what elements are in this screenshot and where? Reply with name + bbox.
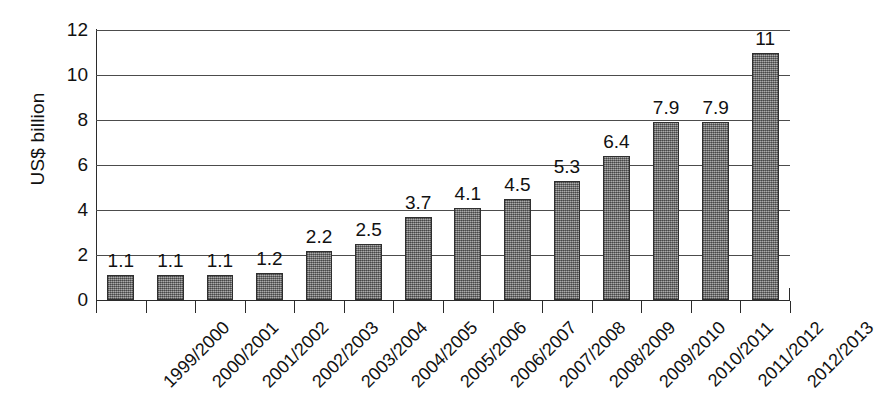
- y-tick-label-6: 6: [48, 155, 88, 174]
- x-tick-mark: [542, 301, 543, 313]
- x-tick-mark: [294, 301, 295, 313]
- bar[interactable]: [157, 275, 184, 300]
- x-tick-mark: [443, 301, 444, 313]
- bar-value-label: 4.5: [493, 175, 543, 194]
- bar-value-label: 4.1: [443, 184, 493, 203]
- y-tick-label-4: 4: [48, 200, 88, 219]
- bar-value-label: 6.4: [592, 132, 642, 151]
- y-tick-label-10: 10: [48, 65, 88, 84]
- x-tick-mark: [96, 301, 97, 313]
- bar[interactable]: [752, 53, 779, 301]
- x-tick-mark: [641, 301, 642, 313]
- bar-value-label: 1.1: [146, 251, 196, 270]
- bar-value-label: 7.9: [691, 98, 741, 117]
- x-tick-mark: [245, 301, 246, 313]
- x-axis-right-cap: [789, 288, 790, 301]
- y-tick-label-8: 8: [48, 110, 88, 129]
- x-tick-mark: [146, 301, 147, 313]
- bar[interactable]: [107, 275, 134, 300]
- bar-value-label: 7.9: [641, 98, 691, 117]
- bar-value-label: 2.5: [344, 220, 394, 239]
- bar[interactable]: [554, 181, 581, 300]
- bar-value-label: 1.1: [195, 251, 245, 270]
- x-tick-mark: [393, 301, 394, 313]
- x-tick-mark: [790, 301, 791, 313]
- gridline-10: [96, 75, 790, 76]
- x-tick-mark: [493, 301, 494, 313]
- gridline-6: [96, 165, 790, 166]
- x-tick-mark: [195, 301, 196, 313]
- bar[interactable]: [207, 275, 234, 300]
- bar[interactable]: [355, 244, 382, 300]
- bar-value-label: 3.7: [393, 193, 443, 212]
- bar[interactable]: [504, 199, 531, 300]
- gridline-4: [96, 210, 790, 211]
- x-tick-mark: [691, 301, 692, 313]
- bar[interactable]: [653, 122, 680, 300]
- bar[interactable]: [256, 273, 283, 300]
- bar-value-label: 1.1: [96, 251, 146, 270]
- y-axis-tick-group: 024681012: [44, 0, 88, 416]
- y-tick-label-2: 2: [48, 245, 88, 264]
- bar-value-label: 2.2: [294, 227, 344, 246]
- bar[interactable]: [306, 251, 333, 301]
- x-tick-mark: [740, 301, 741, 313]
- gridline-12: [96, 30, 790, 31]
- bar-value-label: 11: [740, 29, 790, 48]
- y-tick-label-12: 12: [48, 20, 88, 39]
- bar-value-label: 1.2: [245, 249, 295, 268]
- x-tick-mark: [344, 301, 345, 313]
- bar[interactable]: [702, 122, 729, 300]
- y-tick-label-0: 0: [48, 290, 88, 309]
- gridline-8: [96, 120, 790, 121]
- x-tick-mark: [592, 301, 593, 313]
- bar[interactable]: [405, 217, 432, 300]
- bar[interactable]: [454, 208, 481, 300]
- bar[interactable]: [603, 156, 630, 300]
- bar-value-label: 5.3: [542, 157, 592, 176]
- plot-area: 1.11.11.11.22.22.53.74.14.55.36.47.97.91…: [96, 30, 790, 300]
